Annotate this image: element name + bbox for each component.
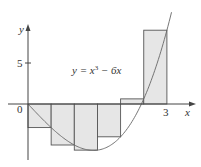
riemann-rect: [51, 104, 74, 145]
riemann-rect: [121, 99, 144, 104]
riemann-sum-chart: y 5 0 3 x y = x3 − 6x: [0, 0, 201, 167]
riemann-rectangles: [28, 30, 167, 150]
x-axis-arrow-icon: [189, 102, 196, 107]
y-axis-label: y: [18, 23, 24, 35]
y-axis-arrow-icon: [26, 24, 31, 31]
equation-prefix: y = x: [71, 64, 95, 76]
y-tick-label-5: 5: [17, 57, 23, 69]
riemann-rect: [97, 104, 120, 137]
x-axis-label: x: [184, 106, 190, 118]
riemann-rect: [74, 104, 97, 150]
x-tick-label-3: 3: [163, 106, 169, 118]
equation-suffix: − 6x: [98, 64, 121, 76]
function-equation: y = x3 − 6x: [71, 64, 122, 76]
x-tick-label-0: 0: [17, 103, 23, 115]
